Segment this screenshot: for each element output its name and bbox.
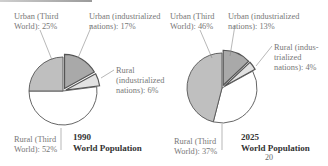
label-line: nations): 17%	[89, 22, 160, 32]
label-line: Rural (Third	[174, 137, 216, 147]
label-2025-rural-third-world: Rural (Third World): 37%	[174, 137, 216, 157]
label-line: nations): 6%	[116, 86, 164, 96]
label-line: nations): 13%	[228, 22, 299, 32]
label-1990-rural-third-world: Rural (Third World): 52%	[14, 135, 56, 155]
label-1990-rural-industrialized: Rural (industrialized nations): 6%	[116, 66, 164, 96]
pie-slice	[29, 87, 97, 125]
label-2025-urban-third-world: Urban (Third World): 46%	[170, 12, 214, 32]
label-line: World): 52%	[14, 145, 56, 155]
subtitle-label: World Population	[73, 143, 142, 154]
label-line: Rural (Third	[14, 135, 56, 145]
label-line: nations): 4%	[274, 63, 318, 73]
label-line: World): 37%	[174, 147, 216, 157]
label-line: Rural	[116, 66, 164, 76]
label-1990-urban-third-world: Urban (Third World): 25%	[14, 12, 58, 32]
label-line: (industrialized	[116, 76, 164, 86]
label-line: Urban (industrialized	[89, 12, 160, 22]
leader-line	[256, 46, 272, 66]
leader-line	[200, 30, 212, 58]
label-2025-rural-industrialized: Rural (indus- trialized nations): 4%	[274, 43, 318, 73]
leader-line	[40, 30, 52, 60]
title-1990: 1990 World Population	[73, 132, 142, 154]
label-line: World): 25%	[14, 22, 58, 32]
label-line: Urban (Third	[170, 12, 214, 22]
label-2025-urban-industrialized: Urban (industrialized nations): 13%	[228, 12, 299, 32]
year-label: 2025	[241, 132, 310, 143]
label-1990-urban-industrialized: Urban (industrialized nations): 17%	[89, 12, 160, 32]
label-line: Urban (industrialized	[228, 12, 299, 22]
label-line: Rural (indus-	[274, 43, 318, 53]
title-2025: 2025 World Population	[241, 132, 310, 154]
subtitle-label: World Population	[241, 143, 310, 154]
label-line: Urban (Third	[14, 12, 58, 22]
label-line: trialized	[274, 53, 318, 63]
pie-slice	[29, 57, 63, 91]
label-line: World): 46%	[170, 22, 214, 32]
year-label: 1990	[73, 132, 142, 143]
leader-line	[101, 70, 114, 78]
page-number: 20	[265, 153, 273, 162]
